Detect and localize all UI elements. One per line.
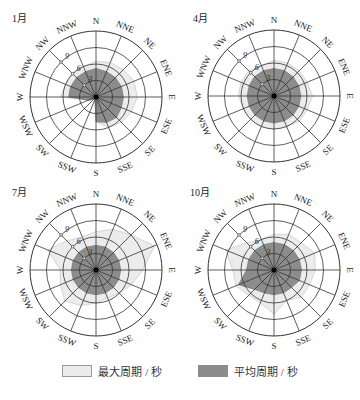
direction-label-NNW: NNW <box>233 17 257 35</box>
legend-label-max: 最大周期 / 秒 <box>98 363 162 379</box>
radial-tick-label: 6 <box>255 237 259 246</box>
radial-tick-label: 3 <box>265 74 270 83</box>
direction-label-E: E <box>345 93 355 99</box>
radial-tick-marker <box>71 72 74 75</box>
radial-tick-marker <box>261 83 264 86</box>
direction-label-WNW: WNW <box>17 55 35 81</box>
legend-item-max: 最大周期 / 秒 <box>62 363 162 379</box>
direction-label-ESE: ESE <box>337 115 353 134</box>
direction-label-SE: SE <box>142 143 157 158</box>
direction-label-NNE: NNE <box>293 18 314 35</box>
direction-label-SW: SW <box>212 141 229 158</box>
direction-label-SSW: SSW <box>56 159 77 176</box>
polar-panel-7月: NNNENEENEEESESESSESSSWSWWSWWWNWNWNNW3697… <box>12 187 177 351</box>
direction-label-E: E <box>167 94 177 100</box>
direction-label-NE: NE <box>320 209 336 225</box>
radial-tick-label: 3 <box>87 248 92 257</box>
radial-tick-marker <box>238 234 241 237</box>
radial-tick-label: 9 <box>243 225 247 234</box>
direction-label-NNE: NNE <box>293 192 314 209</box>
direction-label-W: W <box>15 265 25 274</box>
direction-label-ENE: ENE <box>336 231 352 251</box>
wave-period-rose-charts: NNNENEENEEESESESSESSSWSWWSWWWNWNWNNW3691… <box>0 0 360 400</box>
direction-label-SE: SE <box>320 142 335 157</box>
direction-label-WSW: WSW <box>195 113 213 138</box>
direction-label-SW: SW <box>212 315 229 332</box>
radial-tick-label: 9 <box>65 225 69 234</box>
direction-label-NNW: NNW <box>233 191 257 209</box>
radial-tick-label: 6 <box>77 237 81 246</box>
radial-tick-marker <box>249 245 252 248</box>
radial-tick-marker <box>60 61 63 64</box>
center-dot <box>94 268 99 273</box>
direction-label-SSW: SSW <box>56 332 77 349</box>
direction-label-W: W <box>15 92 25 101</box>
radial-tick-marker <box>261 257 264 260</box>
direction-label-NW: NW <box>211 207 229 225</box>
direction-label-ENE: ENE <box>158 231 174 251</box>
direction-label-NE: NE <box>142 209 158 225</box>
center-dot <box>272 268 277 273</box>
direction-label-WNW: WNW <box>195 54 213 80</box>
direction-label-WSW: WSW <box>17 287 35 312</box>
radial-tick-marker <box>83 84 86 87</box>
radial-tick-marker <box>249 71 252 74</box>
direction-label-S: S <box>93 168 98 178</box>
polar-panel-4月: NNNENEENEEESESESSESSSWSWWSWWWNWNWNNW3694… <box>193 13 355 177</box>
direction-label-NNE: NNE <box>115 192 136 209</box>
direction-label-E: E <box>345 267 355 273</box>
direction-label-NNE: NNE <box>115 19 136 36</box>
legend-item-mean: 平均周期 / 秒 <box>198 363 298 379</box>
radial-tick-marker <box>238 60 241 63</box>
direction-label-WSW: WSW <box>195 287 213 312</box>
direction-label-SE: SE <box>142 316 157 331</box>
direction-label-WNW: WNW <box>195 228 213 254</box>
direction-label-ESE: ESE <box>159 116 175 135</box>
panel-title: 4月 <box>193 13 208 24</box>
radial-tick-label: 6 <box>255 63 259 72</box>
direction-label-SSW: SSW <box>234 332 255 349</box>
direction-label-SSE: SSE <box>294 332 313 347</box>
direction-label-SSE: SSE <box>294 158 313 173</box>
panel-title: 10月 <box>190 187 210 198</box>
direction-label-SW: SW <box>34 315 51 332</box>
direction-label-NNW: NNW <box>55 18 79 36</box>
direction-label-NW: NW <box>33 34 51 52</box>
polar-panel-10月: NNNENEENEEESESESSESSSWSWWSWWWNWNWNNW3691… <box>190 187 355 351</box>
radial-tick-label: 9 <box>65 52 69 61</box>
radial-tick-marker <box>60 234 63 237</box>
radial-tick-label: 3 <box>87 75 92 84</box>
direction-label-W: W <box>193 265 203 274</box>
legend-swatch-mean <box>198 365 228 377</box>
direction-label-S: S <box>93 341 98 351</box>
direction-label-NW: NW <box>33 207 51 225</box>
direction-label-SSW: SSW <box>234 158 255 175</box>
direction-label-N: N <box>93 189 100 199</box>
direction-label-ENE: ENE <box>336 57 352 77</box>
direction-label-NE: NE <box>142 36 158 52</box>
direction-label-N: N <box>271 15 278 25</box>
direction-label-E: E <box>167 267 177 273</box>
panel-title: 7月 <box>12 187 27 198</box>
legend-label-mean: 平均周期 / 秒 <box>234 363 298 379</box>
legend: 最大周期 / 秒 平均周期 / 秒 <box>0 360 360 382</box>
center-dot <box>272 94 277 99</box>
direction-label-N: N <box>271 189 278 199</box>
direction-label-S: S <box>271 167 276 177</box>
polar-panel-1月: NNNENEENEEESESESSESSSWSWWSWWWNWNWNNW3691… <box>12 13 177 178</box>
direction-label-S: S <box>271 341 276 351</box>
direction-label-SE: SE <box>320 316 335 331</box>
spoke-SW <box>49 97 96 144</box>
direction-label-NW: NW <box>211 33 229 51</box>
radial-tick-label: 9 <box>243 51 247 60</box>
direction-label-ESE: ESE <box>159 289 175 308</box>
direction-label-NE: NE <box>320 35 336 51</box>
direction-label-W: W <box>193 91 203 100</box>
panel-title: 1月 <box>12 13 27 24</box>
direction-label-NNW: NNW <box>55 191 79 209</box>
center-dot <box>94 95 99 100</box>
direction-label-SSE: SSE <box>116 159 135 174</box>
direction-label-ESE: ESE <box>337 289 353 308</box>
radial-tick-marker <box>83 257 86 260</box>
direction-label-SSE: SSE <box>116 332 135 347</box>
